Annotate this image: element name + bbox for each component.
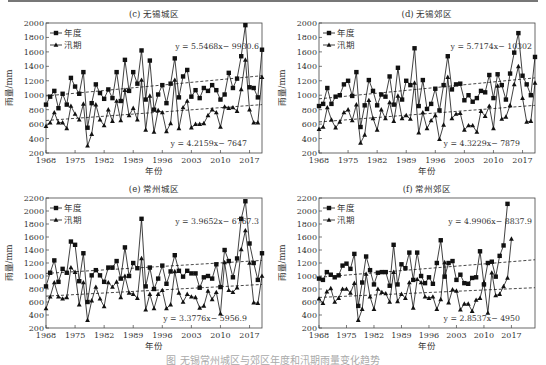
legend-square-icon — [54, 31, 58, 35]
data-point-marker — [429, 102, 433, 106]
data-point-marker — [226, 288, 231, 292]
x-tick-label: 2003 — [446, 331, 466, 340]
trend-equation-annual: y = 5.7174x− 10302 — [450, 42, 532, 51]
data-point-marker — [372, 282, 376, 286]
data-point-marker — [529, 93, 533, 97]
data-point-marker — [114, 259, 118, 263]
data-point-marker — [77, 302, 82, 306]
data-point-marker — [94, 268, 98, 272]
data-point-marker — [235, 76, 239, 80]
data-point-marker — [172, 77, 177, 81]
chart-panel-d: (d) 无锡郊区20040060080010001200140016001800… — [273, 0, 546, 175]
legend-label: 年度 — [337, 28, 355, 38]
y-tick-label: 2000 — [297, 207, 317, 216]
x-tick-label: 1968 — [309, 331, 329, 340]
y-tick-label: 1800 — [297, 33, 317, 42]
data-point-marker — [500, 83, 504, 87]
data-point-marker — [118, 295, 123, 299]
data-point-marker — [516, 64, 521, 68]
data-point-marker — [89, 132, 94, 136]
data-point-marker — [360, 307, 365, 311]
data-point-marker — [243, 228, 248, 232]
data-point-marker — [358, 140, 363, 144]
x-tick-label: 1968 — [36, 331, 56, 340]
data-point-marker — [185, 292, 190, 296]
data-point-marker — [214, 290, 219, 294]
data-point-marker — [328, 286, 333, 290]
data-point-marker — [325, 270, 329, 274]
data-point-marker — [403, 266, 407, 270]
data-point-marker — [60, 267, 64, 271]
y-tick-label: 800 — [302, 106, 317, 115]
data-point-marker — [156, 92, 160, 96]
data-point-marker — [98, 296, 103, 300]
data-point-marker — [400, 116, 405, 120]
data-point-marker — [156, 276, 160, 280]
trend-equation-annual: y = 3.9652x− 6767.3 — [174, 217, 259, 226]
data-point-marker — [412, 46, 416, 50]
data-point-marker — [185, 68, 189, 72]
data-point-marker — [177, 269, 181, 273]
data-point-marker — [81, 70, 85, 74]
y-tick-label: 1200 — [297, 259, 317, 268]
data-point-marker — [210, 83, 214, 87]
data-point-marker — [391, 243, 395, 247]
data-point-marker — [152, 129, 157, 133]
y-tick-label: 400 — [29, 311, 44, 320]
data-point-marker — [181, 74, 185, 78]
data-point-marker — [423, 281, 427, 285]
data-point-marker — [214, 110, 219, 114]
y-tick-label: 2000 — [297, 19, 317, 28]
data-point-marker — [391, 270, 396, 274]
data-point-marker — [396, 93, 401, 97]
data-point-marker — [147, 93, 152, 97]
data-point-marker — [482, 280, 487, 284]
x-tick-label: 1968 — [309, 156, 329, 165]
data-point-marker — [135, 81, 139, 85]
data-point-marker — [348, 267, 352, 271]
data-point-marker — [143, 307, 148, 311]
data-point-marker — [419, 280, 424, 284]
x-tick-label: 1989 — [391, 331, 411, 340]
data-point-marker — [360, 280, 364, 284]
data-point-marker — [392, 102, 396, 106]
data-point-marker — [340, 286, 345, 290]
data-point-marker — [106, 87, 110, 91]
x-tick-label: 1996 — [152, 331, 172, 340]
data-point-marker — [256, 278, 260, 282]
y-tick-label: 1000 — [297, 272, 317, 281]
y-tick-label: 1600 — [297, 233, 317, 242]
data-point-marker — [317, 104, 321, 108]
legend-label: 年度 — [64, 203, 82, 213]
data-point-marker — [411, 305, 416, 309]
y-tick-label: 1000 — [24, 91, 44, 100]
data-point-marker — [411, 278, 415, 282]
data-point-marker — [73, 111, 78, 115]
data-point-marker — [94, 82, 98, 86]
data-point-marker — [81, 251, 85, 255]
data-point-marker — [407, 250, 411, 254]
data-point-marker — [218, 124, 223, 128]
data-point-marker — [533, 80, 538, 84]
data-point-marker — [222, 248, 226, 252]
data-point-marker — [376, 271, 380, 275]
data-point-marker — [375, 103, 379, 107]
data-point-marker — [366, 98, 371, 102]
data-point-marker — [342, 110, 347, 114]
legend-label: 年度 — [64, 28, 82, 38]
trend-equation-flood-season: y = 2.8537x− 4950 — [443, 314, 520, 323]
y-tick-label: 1600 — [297, 48, 317, 57]
data-point-marker — [505, 202, 509, 206]
data-point-marker — [119, 276, 123, 280]
data-point-marker — [415, 250, 419, 254]
x-tick-label: 1982 — [94, 156, 114, 165]
data-point-marker — [466, 282, 470, 286]
x-tick-label: 2010 — [210, 156, 230, 165]
data-point-marker — [533, 55, 537, 59]
data-point-marker — [89, 298, 94, 302]
y-tick-label: 600 — [302, 120, 317, 129]
data-point-marker — [193, 88, 197, 92]
data-point-marker — [379, 107, 384, 111]
data-point-marker — [425, 107, 429, 111]
data-point-marker — [395, 282, 399, 286]
